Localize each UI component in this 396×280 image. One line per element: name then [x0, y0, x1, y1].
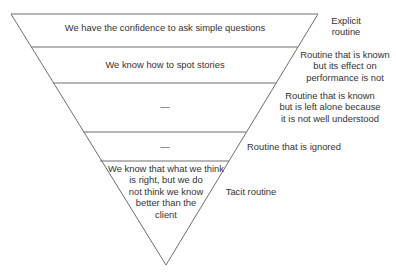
layer-4-text: — [130, 141, 200, 152]
layer-5-line-5: client [100, 209, 232, 220]
side-label-line: Routine that is known [270, 90, 390, 101]
layer-2-side-label: Routine that is known but its effect on … [292, 49, 396, 83]
side-label-line: Explicit [316, 15, 376, 26]
layer-5-text: We know that what we think is right, but… [100, 163, 232, 220]
side-label-line: Tacit routine [216, 186, 286, 197]
layer-3-text: — [130, 101, 200, 112]
pyramid-outline [11, 14, 318, 265]
side-label-line: routine [316, 26, 376, 37]
layer-4-side-label: Routine that is ignored [244, 141, 344, 152]
layer-2-line-1: We know how to spot stories [80, 59, 250, 70]
side-label-line: but its effect on [292, 60, 396, 71]
layer-5-line-4: better than the [100, 197, 232, 208]
layer-1-text: We have the confidence to ask simple que… [60, 22, 270, 33]
inverted-pyramid [0, 0, 396, 280]
side-label-line: it is not well understood [270, 113, 390, 124]
side-label-line: Routine that is known [292, 49, 396, 60]
layer-5-line-1: We know that what we think [100, 163, 232, 174]
layer-5-line-2: is right, but we do [100, 174, 232, 185]
side-label-line: but is left alone because [270, 101, 390, 112]
layer-4-line-1: — [130, 141, 200, 152]
side-label-line: performance is not [292, 72, 396, 83]
layer-5-line-3: not think we know [100, 186, 232, 197]
layer-3-side-label: Routine that is known but is left alone … [270, 90, 390, 124]
layer-1-line-1: We have the confidence to ask simple que… [60, 22, 270, 33]
layer-1-side-label: Explicit routine [316, 15, 376, 38]
layer-2-text: We know how to spot stories [80, 59, 250, 70]
layer-3-line-1: — [130, 101, 200, 112]
side-label-line: Routine that is ignored [244, 141, 344, 152]
layer-5-side-label: Tacit routine [216, 186, 286, 197]
